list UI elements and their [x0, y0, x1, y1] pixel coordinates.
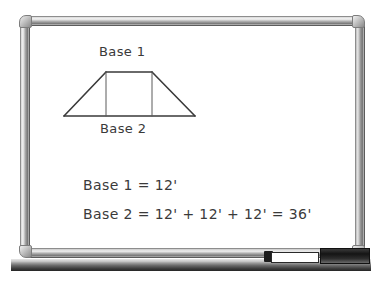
frame-rail-left — [20, 23, 30, 249]
marker-tray — [11, 262, 371, 271]
whiteboard-eraser[interactable] — [320, 248, 370, 264]
frame-rail-top — [27, 16, 356, 26]
whiteboard-scene: Base 1 Base 2 Base 1 = 12' Base 2 = 12' … — [0, 0, 384, 283]
trapezoid-right-leg — [152, 72, 195, 116]
frame-rail-right — [355, 23, 365, 249]
label-base-2: Base 2 — [100, 121, 146, 136]
equation-line-2: Base 2 = 12' + 12' + 12' = 36' — [83, 206, 312, 222]
trapezoid-left-leg — [64, 72, 106, 116]
frame-corner-bottom-left — [19, 245, 32, 258]
trapezoid-diagram — [57, 65, 203, 123]
equation-line-1: Base 1 = 12' — [83, 177, 178, 193]
label-base-1: Base 1 — [99, 44, 145, 59]
whiteboard: Base 1 Base 2 Base 1 = 12' Base 2 = 12' … — [19, 15, 364, 258]
frame-corner-top-left — [19, 15, 32, 28]
dry-erase-marker[interactable] — [271, 252, 319, 263]
frame-corner-top-right — [352, 15, 365, 28]
